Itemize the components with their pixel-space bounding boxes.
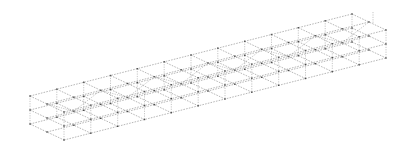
beam-wireframe-diagram (0, 0, 405, 153)
web-brace-line (74, 90, 101, 111)
mesh-node (315, 63, 316, 64)
mesh-node (342, 28, 343, 29)
mesh-node (288, 42, 289, 43)
web-brace-line (128, 77, 155, 98)
mesh-node (261, 63, 262, 64)
web-brace-line (342, 22, 369, 43)
mesh-node (261, 77, 262, 78)
web-brace-line (289, 36, 316, 57)
web-brace-line (235, 49, 262, 70)
mesh-node (207, 90, 208, 91)
mesh-node (73, 97, 74, 98)
mesh-node (100, 104, 101, 105)
mesh-node (154, 104, 155, 105)
beam-mesh (29, 12, 386, 141)
mesh-node (73, 125, 74, 126)
mesh-node (234, 84, 235, 85)
mesh-node (154, 90, 155, 91)
mesh-node (181, 69, 182, 70)
mesh-node (127, 111, 128, 112)
mesh-node (207, 76, 208, 77)
mesh-node (181, 97, 182, 98)
mesh-node (234, 56, 235, 57)
mesh-node (46, 117, 47, 118)
mesh-node (46, 131, 47, 132)
mesh-node (342, 56, 343, 57)
mesh-node (127, 83, 128, 84)
mesh-node (100, 118, 101, 119)
mesh-node (368, 35, 369, 36)
mesh-node (368, 49, 369, 50)
mesh-node (315, 49, 316, 50)
mesh-node (288, 70, 289, 71)
